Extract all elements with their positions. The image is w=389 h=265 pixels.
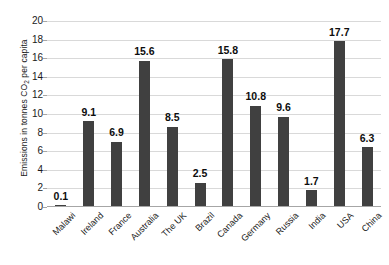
bar[interactable] <box>250 106 261 206</box>
x-tick-label: Brazil <box>161 211 217 265</box>
bar[interactable] <box>334 41 345 206</box>
gridline <box>47 114 381 115</box>
x-tick-label: Australia <box>105 211 161 265</box>
x-axis-line <box>47 206 381 207</box>
gridline <box>47 170 381 171</box>
bar[interactable] <box>222 59 233 206</box>
y-tick-label: 12 <box>3 90 43 100</box>
plot-area: 0.19.16.915.68.52.515.810.89.61.717.76.3 <box>47 21 381 207</box>
y-tick-label: 6 <box>3 146 43 156</box>
bar[interactable] <box>278 117 289 206</box>
y-tick-label: 2 <box>3 183 43 193</box>
gridline <box>47 40 381 41</box>
y-tick-label: 4 <box>3 165 43 175</box>
x-tick-label: Germany <box>216 211 272 265</box>
bar-value-label: 2.5 <box>193 168 208 179</box>
bar-value-label: 17.7 <box>329 27 349 38</box>
bar-value-label: 0.1 <box>54 191 69 202</box>
bar[interactable] <box>111 142 122 206</box>
bar[interactable] <box>83 121 94 206</box>
bar-value-label: 9.1 <box>81 107 96 118</box>
y-tick-label: 18 <box>3 35 43 45</box>
y-tick-label: 0 <box>3 202 43 212</box>
x-tick-label: Ireland <box>49 211 105 265</box>
gridline <box>47 151 381 152</box>
bar-value-label: 15.8 <box>218 45 238 56</box>
gridline <box>47 21 381 22</box>
gridline <box>47 188 381 189</box>
bar-value-label: 15.6 <box>134 46 154 57</box>
gridline <box>47 58 381 59</box>
gridline <box>47 77 381 78</box>
x-tick-label: USA <box>300 211 356 265</box>
x-tick-label: Canada <box>188 211 244 265</box>
bar[interactable] <box>139 61 150 206</box>
bar[interactable] <box>167 127 178 206</box>
y-tick-label: 16 <box>3 53 43 63</box>
x-tick-label: China <box>328 211 384 265</box>
gridline <box>47 95 381 96</box>
gridline <box>47 133 381 134</box>
y-tick-label: 10 <box>3 109 43 119</box>
bar[interactable] <box>362 147 373 206</box>
bar-value-label: 9.6 <box>276 102 291 113</box>
bar-value-label: 10.8 <box>246 91 266 102</box>
x-tick-label: Russia <box>244 211 300 265</box>
bar[interactable] <box>55 205 66 206</box>
x-axis-labels: MalawiIrelandFranceAustraliaThe UKBrazil… <box>47 208 381 265</box>
bar-value-label: 8.5 <box>165 112 180 123</box>
bar-chart: Emissions in tonnes CO2 per capita 02468… <box>0 0 389 265</box>
x-tick-label: India <box>272 211 328 265</box>
bar[interactable] <box>195 183 206 206</box>
bar[interactable] <box>306 190 317 206</box>
y-tick-label: 8 <box>3 128 43 138</box>
x-tick-label: The UK <box>133 211 189 265</box>
bar-value-label: 6.3 <box>360 133 375 144</box>
y-axis-ticks: 02468101214161820 <box>0 21 43 207</box>
x-tick-label: France <box>77 211 133 265</box>
bar-value-label: 6.9 <box>109 127 124 138</box>
y-tick-label: 14 <box>3 72 43 82</box>
x-tick-label: Malawi <box>21 211 77 265</box>
y-tick-label: 20 <box>3 16 43 26</box>
bar-value-label: 1.7 <box>304 176 319 187</box>
